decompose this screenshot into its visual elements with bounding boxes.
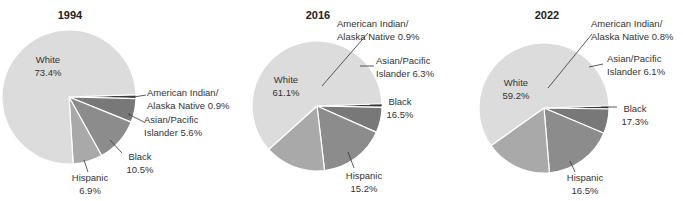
leader-lines [230,0,455,201]
leader-lines [455,0,683,201]
pie-chart-1994: 1994 White 73.4% American Indian/ Alaska… [0,0,230,201]
leader-lines [0,0,230,201]
pie-chart-2022: 2022 White 59.2% American Indian/ Alaska… [455,0,683,201]
pie-chart-2016: 2016 White 61.1% American Indian/ Alaska… [230,0,455,201]
